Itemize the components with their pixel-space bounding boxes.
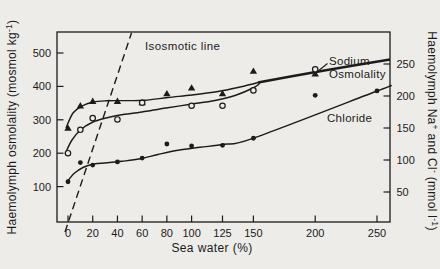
x-axis-tick-label: 150 [244,227,262,239]
x-axis-tick-label: 0 [65,227,71,239]
series-label-sodium: Sodium [329,55,370,67]
marker-chloride [220,143,225,148]
marker-osmolality [65,151,70,156]
marker-chloride [78,160,83,165]
x-axis-tick-label: 60 [136,227,148,239]
marker-osmolality [220,103,225,108]
isosmotic-line-label: Isosmotic line [145,40,220,52]
series-label-osmolality: Osmolality [329,68,386,80]
right-axis-tick-label: 50 [397,186,409,198]
left-axis-title: Haemolymph osmolality (mosmol kg-1) [4,20,19,235]
marker-chloride [164,142,169,147]
series-label-chloride: Chloride [327,112,372,124]
marker-chloride [313,93,318,98]
x-axis-tick-label: 200 [306,227,324,239]
left-axis-tick-label: 500 [33,47,51,59]
marker-chloride [115,160,120,165]
x-axis-tick-label: 20 [87,227,99,239]
x-axis-tick-label: 40 [111,227,123,239]
x-axis-tick-label: 125 [213,227,231,239]
x-axis-tick-label: 250 [368,227,386,239]
marker-osmolality [313,67,318,72]
marker-chloride [90,163,95,168]
figure-canvas: 0204060801001251502002501002003004005005… [0,0,440,269]
marker-osmolality [139,100,144,105]
marker-chloride [66,179,71,184]
x-axis-title: Sea water (%) [171,241,252,255]
x-axis-tick-label: 80 [161,227,173,239]
right-axis-tick-label: 150 [397,122,415,134]
left-axis-tick-label: 100 [33,181,51,193]
marker-osmolality [251,88,256,93]
left-axis-tick-label: 400 [33,80,51,92]
x-axis-tick-label: 100 [182,227,200,239]
marker-osmolality [189,103,194,108]
marker-osmolality [115,117,120,122]
marker-chloride [375,88,380,93]
marker-chloride [140,156,145,161]
right-axis-title: Haemolymph Na+ and Cl- (mmol l-1) [425,31,440,230]
chart-svg: 0204060801001251502002501002003004005005… [0,0,440,269]
right-axis-tick-label: 200 [397,90,415,102]
right-axis-tick-label: 250 [397,58,415,70]
marker-osmolality [90,115,95,120]
marker-chloride [251,136,256,141]
left-axis-tick-label: 200 [33,147,51,159]
marker-osmolality [78,127,83,132]
left-axis-tick-label: 300 [33,114,51,126]
marker-chloride [189,144,194,149]
right-axis-tick-label: 100 [397,154,415,166]
